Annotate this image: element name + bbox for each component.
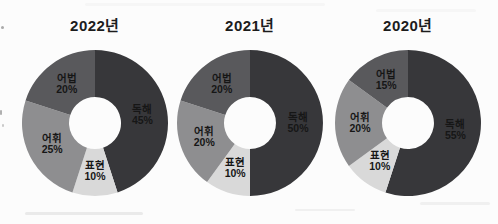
donut-chart-2020: 2020년 독해55%표현10%어휘20%어법15% xyxy=(328,12,488,212)
donut-slice-독해 xyxy=(250,50,323,196)
slice-label-어휘: 어휘20% xyxy=(194,125,216,148)
scan-artifact xyxy=(0,110,2,115)
chart-title-2022: 2022년 xyxy=(15,14,175,35)
chart-title-2020: 2020년 xyxy=(328,14,488,35)
scan-artifact xyxy=(85,3,325,6)
chart-canvas: 2022년 독해45%표현10%어휘25%어법20% 2021년 독해50%표현… xyxy=(0,0,498,224)
slice-label-표현: 표현10% xyxy=(369,149,391,172)
slice-label-표현: 표현10% xyxy=(225,156,247,179)
slice-label-어휘: 어휘20% xyxy=(349,111,371,134)
slice-label-독해: 독해50% xyxy=(287,111,309,134)
donut-2020-svg: 독해55%표현10%어휘20%어법15% xyxy=(333,48,483,198)
chart-title-2021: 2021년 xyxy=(170,14,330,35)
scan-artifact xyxy=(2,124,4,127)
donut-2022-svg: 독해45%표현10%어휘25%어법20% xyxy=(20,48,170,198)
scan-artifact xyxy=(25,212,143,215)
slice-label-어법: 어법20% xyxy=(211,72,233,95)
scan-artifact xyxy=(1,26,4,29)
slice-label-독해: 독해45% xyxy=(132,103,154,126)
donut-chart-2021: 2021년 독해50%표현10%어휘20%어법20% xyxy=(170,12,330,212)
slice-label-어휘: 어휘25% xyxy=(42,132,64,155)
donut-2021-svg: 독해50%표현10%어휘20%어법20% xyxy=(175,48,325,198)
slice-label-표현: 표현10% xyxy=(84,159,106,182)
slice-label-독해: 독해55% xyxy=(445,118,467,141)
slice-label-어법: 어법15% xyxy=(376,68,398,91)
slice-label-어법: 어법20% xyxy=(56,72,78,95)
donut-chart-2022: 2022년 독해45%표현10%어휘25%어법20% xyxy=(15,12,175,212)
